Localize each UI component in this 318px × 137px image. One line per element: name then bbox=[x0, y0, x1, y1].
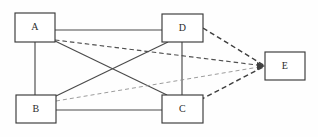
node-a[interactable]: A bbox=[15, 13, 55, 42]
graph-diagram: A D E B C bbox=[0, 0, 318, 137]
node-d[interactable]: D bbox=[162, 14, 203, 42]
node-b-label: B bbox=[33, 103, 40, 114]
node-b[interactable]: B bbox=[16, 95, 56, 123]
node-c[interactable]: C bbox=[162, 95, 203, 123]
node-e-label: E bbox=[282, 60, 288, 71]
node-c-label: C bbox=[179, 103, 186, 114]
node-e[interactable]: E bbox=[265, 52, 305, 80]
edge-layer bbox=[35, 28, 265, 110]
edge-a-c bbox=[55, 41, 167, 95]
node-d-label: D bbox=[179, 22, 187, 33]
node-a-label: A bbox=[31, 21, 39, 32]
edge-a-e bbox=[55, 40, 263, 66]
graph-canvas: A D E B C bbox=[0, 0, 318, 137]
